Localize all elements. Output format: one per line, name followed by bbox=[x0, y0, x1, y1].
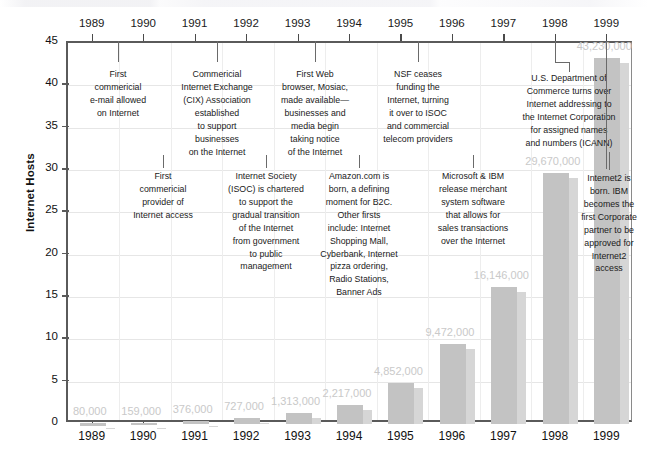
annotation-leader-line-1994 bbox=[359, 155, 360, 168]
annotation-leader-line-1993 bbox=[315, 41, 316, 62]
y-tick-mark bbox=[62, 83, 69, 85]
y-tick-label: 40 bbox=[20, 76, 58, 88]
timeline-annotation-1995: NSF ceasesfunding theInternet, turningit… bbox=[370, 68, 466, 146]
annotation-line: sales transactions bbox=[420, 222, 526, 235]
annotation-line: Internet2 is bbox=[575, 172, 643, 185]
annotation-line: Radio Stations, bbox=[307, 273, 411, 286]
annotation-line: of the Internet bbox=[267, 146, 363, 159]
bar-value-label: 4,852,000 bbox=[374, 365, 423, 377]
annotation-line: on Internet bbox=[75, 107, 161, 120]
x-tick-mark-top bbox=[452, 34, 453, 41]
x-tick-mark-top bbox=[298, 34, 299, 41]
annotation-line: Internet2 bbox=[575, 250, 643, 263]
y-tick-mark bbox=[62, 168, 69, 170]
annotation-line: commericial bbox=[75, 81, 161, 94]
annotation-line: Cyberbank, Internet bbox=[307, 248, 411, 261]
bar-value-label: 1,313,000 bbox=[271, 395, 320, 407]
bar-shadow bbox=[466, 349, 475, 424]
annotation-line: pizza ordering, bbox=[307, 260, 411, 273]
annotation-line: on the Internet bbox=[165, 146, 269, 159]
bar[interactable] bbox=[80, 423, 106, 426]
annotation-line: to public bbox=[214, 248, 318, 261]
annotation-line: established bbox=[165, 107, 269, 120]
annotation-line: Internet Exchange bbox=[165, 81, 269, 94]
y-tick-mark bbox=[62, 337, 69, 339]
x-tick-mark-top bbox=[195, 34, 196, 41]
bar-shadow bbox=[106, 428, 115, 429]
annotation-line: of the Internet bbox=[214, 222, 318, 235]
bar[interactable] bbox=[543, 173, 569, 424]
annotation-line: born, a defining bbox=[307, 183, 411, 196]
annotation-line: from government bbox=[214, 235, 318, 248]
annotation-line: Internet, turning bbox=[370, 94, 466, 107]
annotation-line: Microsoft & IBM bbox=[420, 170, 526, 183]
x-tick-mark-top bbox=[555, 34, 556, 41]
y-tick-label: 10 bbox=[20, 330, 58, 342]
x-tick-mark-top bbox=[92, 34, 93, 41]
annotation-line: and commercial bbox=[370, 120, 466, 133]
x-tick-mark-top bbox=[143, 34, 144, 41]
timeline-annotation-1998: U.S. Department ofCommerce turns overInt… bbox=[503, 72, 635, 150]
y-tick-label: 0 bbox=[20, 415, 58, 427]
bar[interactable] bbox=[131, 423, 157, 426]
x-tick-label-top: 1999 bbox=[576, 17, 636, 29]
annotation-line: First bbox=[75, 68, 161, 81]
y-tick-mark bbox=[62, 126, 69, 128]
annotation-line: funding the bbox=[370, 81, 466, 94]
x-tick-mark-top bbox=[503, 34, 504, 41]
bar[interactable] bbox=[234, 418, 260, 424]
bar-value-label: 16,146,000 bbox=[474, 269, 529, 281]
bar-value-label: 80,000 bbox=[73, 405, 107, 417]
annotation-line: Other firsts bbox=[307, 209, 411, 222]
annotation-line: e-mail allowed bbox=[75, 94, 161, 107]
bar-value-label: 159,000 bbox=[121, 405, 161, 417]
bar[interactable] bbox=[337, 405, 363, 424]
bar-shadow bbox=[414, 388, 423, 424]
annotation-leader-line-1996 bbox=[473, 155, 474, 168]
bar-shadow bbox=[517, 292, 526, 424]
bar[interactable] bbox=[388, 383, 414, 424]
x-tick-mark-top bbox=[400, 34, 401, 41]
annotation-line: born. IBM bbox=[575, 185, 643, 198]
bar-shadow bbox=[260, 423, 269, 424]
bar[interactable] bbox=[183, 421, 209, 424]
timeline-annotation-1999: Internet2 isborn. IBMbecomes thefirst Co… bbox=[575, 172, 643, 275]
bar[interactable] bbox=[440, 344, 466, 424]
annotation-line: first Corporate bbox=[575, 211, 643, 224]
timeline-annotation-1993: First Webbrowser, Mosiac,made available—… bbox=[267, 68, 363, 158]
x-tick-label-bottom: 1999 bbox=[576, 429, 636, 443]
annotation-line: partner to be bbox=[575, 224, 643, 237]
timeline-annotation-1996: Microsoft & IBMrelease merchantsystem so… bbox=[420, 170, 526, 248]
annotation-line: NSF ceases bbox=[370, 68, 466, 81]
annotation-line: access bbox=[575, 262, 643, 275]
annotation-line: commericial bbox=[117, 183, 209, 196]
annotation-line: becomes the bbox=[575, 198, 643, 211]
annotation-line: First bbox=[117, 170, 209, 183]
x-tick-mark-top bbox=[246, 34, 247, 41]
bar-value-label: 43,230,000 bbox=[577, 40, 632, 52]
annotation-line: to support bbox=[165, 120, 269, 133]
annotation-line: over the Internet bbox=[420, 235, 526, 248]
y-tick-label: 5 bbox=[20, 373, 58, 385]
y-tick-label: 25 bbox=[20, 203, 58, 215]
bar[interactable] bbox=[491, 287, 517, 424]
internet-hosts-timeline-chart: Internet Hosts 051015202530354045 198919… bbox=[0, 0, 648, 464]
annotation-line: made available— bbox=[267, 94, 363, 107]
bar-value-label: 376,000 bbox=[173, 403, 213, 415]
annotation-line: moment for B2C. bbox=[307, 196, 411, 209]
bar-value-label: 2,217,000 bbox=[323, 387, 372, 399]
timeline-annotation-1990: Firstcommericialprovider ofInternet acce… bbox=[117, 170, 209, 222]
bar[interactable] bbox=[286, 413, 312, 424]
annotation-line: it over to ISOC bbox=[370, 107, 466, 120]
bar-value-label: 9,472,000 bbox=[425, 326, 474, 338]
annotation-line: release merchant bbox=[420, 183, 526, 196]
annotation-line: include: Internet bbox=[307, 222, 411, 235]
annotation-line: system software bbox=[420, 196, 526, 209]
annotation-line: First Web bbox=[267, 68, 363, 81]
annotation-line: Commerce turns over bbox=[503, 85, 635, 98]
annotation-line: to support the bbox=[214, 196, 318, 209]
annotation-line: Commericial bbox=[165, 68, 269, 81]
bar-shadow bbox=[157, 428, 166, 429]
annotation-line: Internet Society bbox=[214, 170, 318, 183]
annotation-line: businesses bbox=[165, 133, 269, 146]
